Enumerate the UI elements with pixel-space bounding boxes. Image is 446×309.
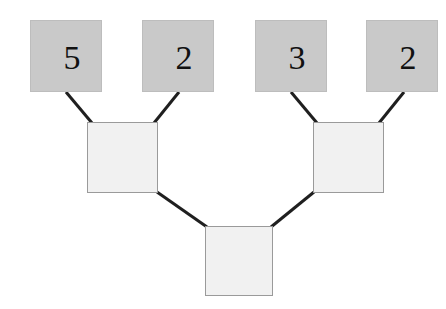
leaf-node-1-label: 5 — [64, 41, 81, 75]
leaf-node-3: 3 — [255, 20, 327, 92]
internal-node-right — [313, 122, 384, 193]
tree-edge-internalRight-to-root — [271, 192, 314, 227]
tree-edge-leaf2-to-internalLeft — [154, 92, 179, 123]
tree-edge-leaf4-to-internalRight — [379, 92, 404, 123]
internal-node-left — [87, 122, 158, 193]
tree-edge-internalLeft-to-root — [157, 192, 207, 227]
leaf-node-4-label: 2 — [400, 41, 417, 75]
leaf-node-3-label: 3 — [289, 41, 306, 75]
leaf-node-1: 5 — [30, 20, 102, 92]
leaf-node-2-label: 2 — [176, 41, 193, 75]
leaf-node-4: 2 — [366, 20, 438, 92]
tree-diagram: 5 2 3 2 — [0, 0, 446, 309]
tree-edge-leaf3-to-internalRight — [291, 92, 317, 123]
root-node — [205, 226, 273, 296]
leaf-node-2: 2 — [142, 20, 214, 92]
tree-edge-leaf1-to-internalLeft — [66, 92, 92, 123]
